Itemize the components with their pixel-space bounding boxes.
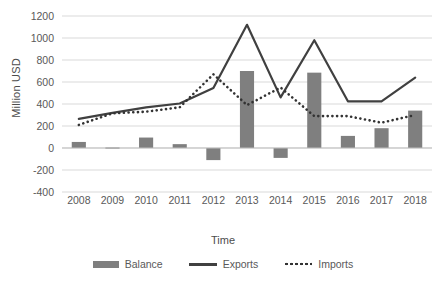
- x-tick-label-2011: 2011: [168, 194, 191, 206]
- chart-legend: BalanceExportsImports: [0, 258, 446, 270]
- legend-item-balance[interactable]: Balance: [93, 258, 163, 270]
- x-tick-label-2008: 2008: [67, 194, 90, 206]
- y-tick-label: -200: [12, 164, 54, 176]
- x-tick-label-2009: 2009: [101, 194, 124, 206]
- x-tick-label-2010: 2010: [134, 194, 157, 206]
- x-tick-label-2013: 2013: [235, 194, 258, 206]
- x-tick-label-2012: 2012: [202, 194, 225, 206]
- chart-container: Million USD Time 120010008006004002000-2…: [0, 0, 446, 286]
- y-tick-label: 600: [12, 76, 54, 88]
- bar-2015: [307, 73, 321, 148]
- y-tick-label: 0: [12, 142, 54, 154]
- bar-2012: [206, 148, 220, 160]
- bar-swatch-icon: [93, 261, 119, 268]
- bar-2013: [240, 71, 254, 148]
- solid-line-swatch-icon: [189, 263, 217, 266]
- x-axis-title: Time: [0, 234, 446, 246]
- dotted-line-swatch-icon: [284, 262, 312, 266]
- y-tick-label: 1000: [12, 32, 54, 44]
- legend-label: Imports: [318, 258, 353, 270]
- y-tick-label: 200: [12, 120, 54, 132]
- bar-2011: [173, 144, 187, 148]
- y-tick-label: 1200: [12, 10, 54, 22]
- bar-2008: [72, 142, 86, 148]
- x-tick-label-2014: 2014: [269, 194, 292, 206]
- legend-label: Balance: [125, 258, 163, 270]
- legend-label: Exports: [223, 258, 259, 270]
- y-tick-label: 800: [12, 54, 54, 66]
- x-tick-label-2015: 2015: [303, 194, 326, 206]
- x-tick-label-2018: 2018: [403, 194, 426, 206]
- x-tick-label-2016: 2016: [336, 194, 359, 206]
- bar-2010: [139, 138, 153, 148]
- bar-2016: [341, 136, 355, 148]
- legend-item-exports[interactable]: Exports: [189, 258, 259, 270]
- bar-2014: [274, 148, 288, 158]
- y-tick-label: 400: [12, 98, 54, 110]
- x-tick-label-2017: 2017: [370, 194, 393, 206]
- y-tick-label: -400: [12, 186, 54, 198]
- bar-2017: [374, 128, 388, 148]
- legend-item-imports[interactable]: Imports: [284, 258, 353, 270]
